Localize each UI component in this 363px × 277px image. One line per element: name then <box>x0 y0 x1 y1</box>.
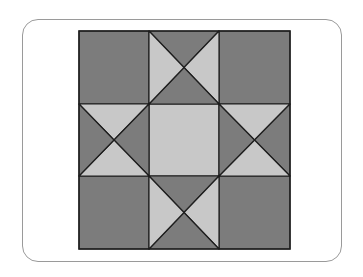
corner-block-top-left <box>79 31 149 104</box>
quilt-diagram <box>0 0 363 277</box>
corner-block-bottom-left <box>79 176 149 249</box>
center-block <box>149 104 219 176</box>
corner-block-top-right <box>219 31 290 104</box>
corner-block-bottom-right <box>219 176 290 249</box>
quilt-block <box>79 31 290 249</box>
